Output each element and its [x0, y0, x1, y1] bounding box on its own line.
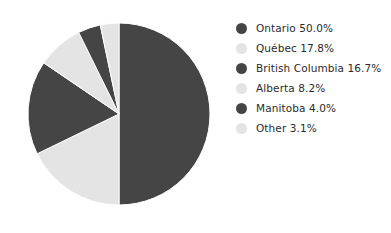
legend-item[interactable]: British Columbia 16.7% — [236, 58, 386, 78]
legend-item-label: Québec 17.8% — [256, 42, 334, 54]
pie-slice[interactable] — [119, 23, 210, 205]
pie-chart-svg — [26, 21, 212, 207]
circle-marker — [236, 123, 247, 134]
legend-item[interactable]: Québec 17.8% — [236, 38, 386, 58]
chart-legend: Ontario 50.0%Québec 17.8%British Columbi… — [236, 18, 386, 138]
legend-item[interactable]: Alberta 8.2% — [236, 78, 386, 98]
circle-marker — [236, 103, 247, 114]
legend-item-label: Ontario 50.0% — [256, 22, 333, 34]
circle-marker — [236, 43, 247, 54]
legend-item-label: Manitoba 4.0% — [256, 102, 336, 114]
legend-item[interactable]: Other 3.1% — [236, 118, 386, 138]
circle-marker — [236, 23, 247, 34]
pie-chart-figure: Ontario 50.0%Québec 17.8%British Columbi… — [0, 0, 391, 233]
circle-marker — [236, 63, 247, 74]
pie-chart-plot-area — [26, 21, 212, 207]
legend-item[interactable]: Manitoba 4.0% — [236, 98, 386, 118]
circle-marker — [236, 83, 247, 94]
legend-item-label: Alberta 8.2% — [256, 82, 325, 94]
legend-item-label: Other 3.1% — [256, 122, 317, 134]
legend-item[interactable]: Ontario 50.0% — [236, 18, 386, 38]
legend-item-label: British Columbia 16.7% — [256, 62, 381, 74]
